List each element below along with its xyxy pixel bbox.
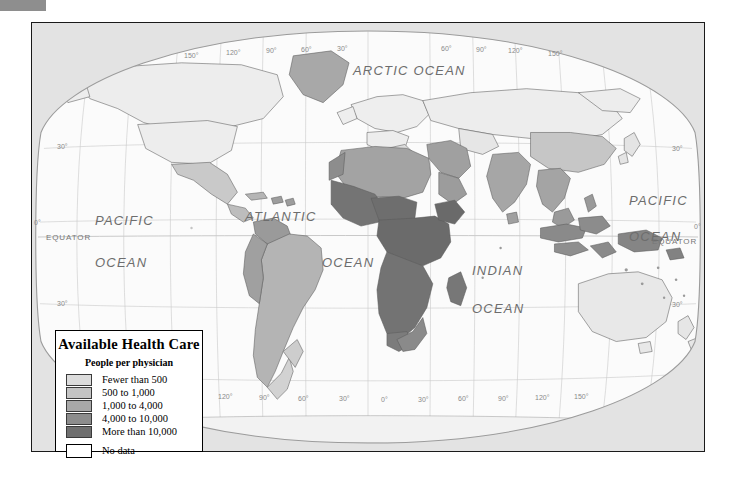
legend-item: 4,000 to 10,000 (66, 412, 202, 425)
legend-item-label: 1,000 to 4,000 (102, 400, 163, 412)
legend-swatch-icon (66, 387, 92, 399)
legend-item-label: 500 to 1,000 (102, 387, 155, 399)
legend-swatch-icon (66, 426, 92, 438)
legend-title: Available Health Care (56, 336, 202, 353)
legend-item-no-data: No data (66, 443, 202, 458)
legend-item: More than 10,000 (66, 425, 202, 438)
legend-item-label: No data (102, 445, 135, 457)
legend-swatch-icon (66, 444, 92, 458)
legend-swatch-icon (66, 374, 92, 386)
legend-item-label: Fewer than 500 (102, 374, 167, 386)
legend-item-label: More than 10,000 (102, 426, 177, 438)
legend-item-label: 4,000 to 10,000 (102, 413, 168, 425)
legend-swatch-icon (66, 413, 92, 425)
legend-subtitle: People per physician (56, 357, 202, 368)
corner-tab (0, 0, 46, 11)
legend-item: Fewer than 500 (66, 373, 202, 386)
legend-item: 1,000 to 4,000 (66, 399, 202, 412)
legend-swatch-icon (66, 400, 92, 412)
map-legend: Available Health Care People per physici… (55, 330, 203, 452)
legend-item: 500 to 1,000 (66, 386, 202, 399)
legend-class-list: Fewer than 500 500 to 1,000 1,000 to 4,0… (66, 373, 202, 458)
